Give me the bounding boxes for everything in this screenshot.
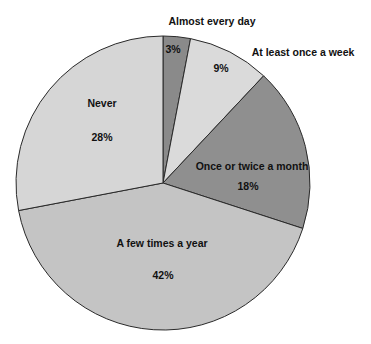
- category-label-a-few-times-a-year: A few times a year: [116, 237, 207, 249]
- percent-label-once-or-twice-a-month: 18%: [237, 180, 259, 192]
- pie-slice-never: [16, 36, 163, 211]
- category-label-never: Never: [87, 97, 116, 109]
- percent-label-almost-every-day: 3%: [165, 43, 181, 55]
- pie-chart: Almost every day3%At least once a week9%…: [0, 0, 371, 344]
- percent-label-a-few-times-a-year: 42%: [152, 269, 174, 281]
- percent-label-never: 28%: [91, 131, 113, 143]
- category-label-at-least-once-a-week: At least once a week: [252, 46, 355, 58]
- category-label-almost-every-day: Almost every day: [169, 15, 256, 27]
- pie-slices: [16, 36, 310, 330]
- category-label-once-or-twice-a-month: Once or twice a month: [196, 160, 309, 172]
- percent-label-at-least-once-a-week: 9%: [213, 62, 229, 74]
